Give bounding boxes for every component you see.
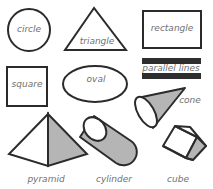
cylinder-shape [79, 113, 137, 166]
cylinder-label: cylinder [96, 175, 132, 184]
oval-label: oval [87, 75, 106, 84]
cube-shape [163, 126, 206, 160]
cone-label: cone [179, 96, 201, 105]
parallel-lines-label: parallel lines [142, 64, 199, 73]
pyramid-shape [9, 114, 87, 166]
rectangle-label: rectangle [151, 24, 194, 33]
circle-label: circle [17, 25, 41, 34]
cube-label: cube [167, 175, 189, 184]
square-label: square [12, 80, 43, 89]
pyramid-label: pyramid [27, 175, 64, 184]
parallel-line-bottom [142, 73, 201, 79]
triangle-label: triangle [80, 37, 115, 46]
cone-shape [131, 88, 185, 131]
oval-shape [63, 66, 127, 102]
